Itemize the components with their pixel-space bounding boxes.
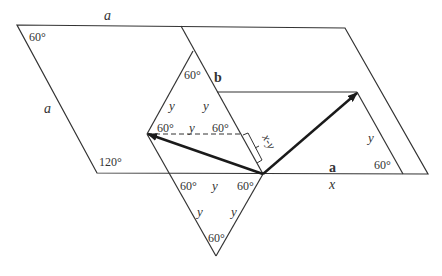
angle-lower-right: 60° bbox=[237, 179, 254, 193]
label-left-a: a bbox=[44, 101, 51, 116]
y-lower-top: y bbox=[210, 178, 218, 193]
geometry-diagram: a a 60° 120° 60° b y y 60° y 60° x-y 60°… bbox=[0, 0, 442, 276]
angle-upper-right: 60° bbox=[212, 121, 229, 135]
angle-top-left: 60° bbox=[29, 30, 46, 44]
y-lower-right: y bbox=[229, 204, 237, 219]
outer-parallelogram bbox=[17, 25, 428, 174]
angle-lower-left: 60° bbox=[180, 179, 197, 193]
lower-triangle-left-side bbox=[147, 134, 216, 256]
angle-right-parallelogram: 60° bbox=[374, 158, 391, 172]
angle-bottom-left: 120° bbox=[99, 155, 122, 169]
angle-upper-apex: 60° bbox=[184, 68, 201, 82]
y-upper-right: y bbox=[201, 98, 209, 113]
vector-to-left bbox=[148, 134, 263, 174]
vector-to-upper-right bbox=[263, 93, 357, 174]
label-vector-a: a bbox=[329, 160, 336, 175]
angle-upper-left: 60° bbox=[157, 121, 174, 135]
y-right-side: y bbox=[366, 130, 374, 145]
inner-slant-line bbox=[181, 26, 263, 174]
label-x-minus-y: x-y bbox=[259, 131, 279, 152]
label-top-a: a bbox=[104, 8, 111, 23]
y-upper-base: y bbox=[187, 120, 195, 135]
y-lower-left: y bbox=[195, 204, 203, 219]
label-x: x bbox=[328, 177, 336, 192]
label-vector-b: b bbox=[214, 70, 222, 85]
y-upper-left: y bbox=[167, 98, 175, 113]
angle-lower-bottom: 60° bbox=[208, 231, 225, 245]
